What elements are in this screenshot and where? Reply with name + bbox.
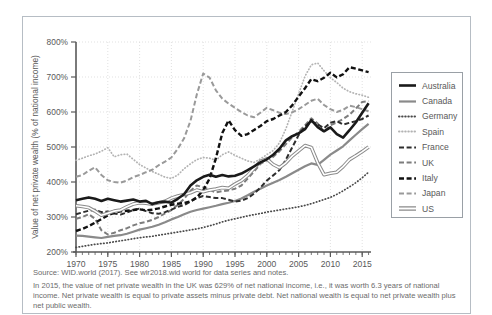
series-line-spain	[76, 63, 369, 179]
series-line-japan	[76, 74, 369, 183]
legend-item-canada: Canada	[398, 93, 462, 108]
y-tick-label: 400%	[47, 177, 69, 187]
legend-label-germany: Germany	[422, 111, 457, 121]
y-tick-label: 800%	[47, 37, 69, 47]
legend-line-sample-france	[398, 143, 417, 152]
wealth-figure: Value of net private wealth (% of nation…	[0, 0, 492, 315]
legend-label-spain: Spain	[422, 127, 444, 137]
legend-label-canada: Canada	[422, 96, 452, 106]
legend-item-italy: Italy	[398, 170, 462, 185]
legend-label-us: US	[422, 204, 434, 214]
series-line-uk	[76, 101, 369, 234]
legend-line-sample-us	[398, 204, 417, 213]
legend-item-australia: Australia	[398, 78, 462, 93]
legend-item-spain: Spain	[398, 124, 462, 139]
source-text: Source: WID.world (2017). See wir2018.wi…	[33, 268, 463, 277]
legend-item-germany: Germany	[398, 109, 462, 124]
legend-item-japan: Japan	[398, 186, 462, 201]
chart-legend: AustraliaCanadaGermanySpainFranceUKItaly…	[391, 72, 463, 218]
legend-line-sample-italy	[398, 174, 417, 183]
legend-item-us: US	[398, 201, 462, 216]
legend-item-uk: UK	[398, 155, 462, 170]
legend-label-italy: Italy	[422, 173, 438, 183]
legend-label-france: France	[422, 142, 449, 152]
legend-item-france: France	[398, 140, 462, 155]
legend-line-sample-japan	[398, 189, 417, 198]
note-text: In 2015, the value of net private wealth…	[33, 281, 461, 311]
legend-line-sample-germany	[398, 112, 417, 121]
legend-label-japan: Japan	[422, 188, 445, 198]
legend-line-sample-australia	[398, 81, 417, 90]
series-line-canada	[76, 124, 369, 238]
y-axis-title: Value of net private wealth (% of nation…	[30, 55, 40, 239]
legend-label-australia: Australia	[422, 81, 455, 91]
y-tick-label: 600%	[47, 107, 69, 117]
series-line-italy	[76, 67, 369, 231]
legend-line-sample-uk	[398, 158, 417, 167]
legend-line-sample-canada	[398, 97, 417, 106]
legend-label-uk: UK	[422, 158, 434, 168]
y-tick-label: 700%	[47, 72, 69, 82]
legend-line-sample-spain	[398, 127, 417, 136]
y-tick-label: 500%	[47, 142, 69, 152]
y-tick-label: 200%	[47, 247, 69, 257]
y-tick-label: 300%	[47, 212, 69, 222]
